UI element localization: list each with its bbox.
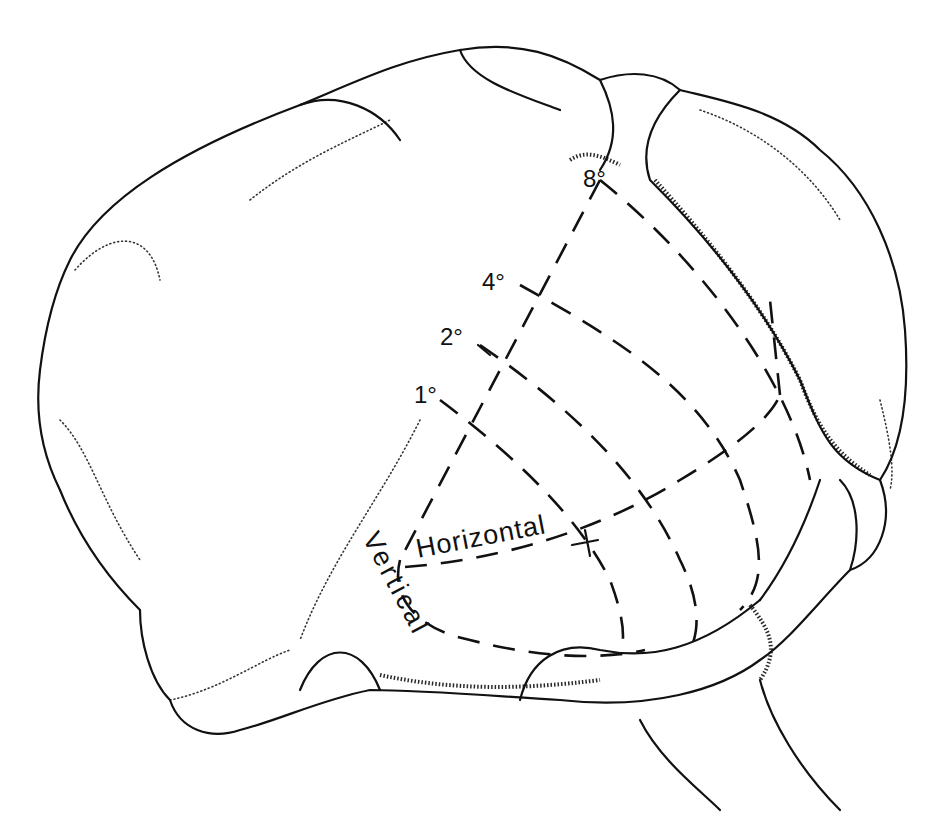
- arc-2deg: [480, 345, 697, 650]
- visual-field-map: [398, 180, 810, 656]
- outer-arc-8deg: [600, 180, 810, 480]
- brainstem: [640, 680, 840, 810]
- brain-visual-field-diagram: 8° 4° 2° 1° Horizontal Vertical: [0, 0, 952, 834]
- brain-outline: [38, 47, 906, 734]
- arc-4deg: [520, 285, 759, 610]
- label-8deg: 8°: [583, 165, 606, 192]
- eccentricity-labels: 8° 4° 2° 1°: [414, 165, 606, 408]
- label-4deg: 4°: [482, 268, 505, 295]
- vertical-meridian-upper: [400, 180, 600, 560]
- label-1deg: 1°: [414, 381, 437, 408]
- stipple-shading: [60, 110, 892, 700]
- label-2deg: 2°: [440, 323, 463, 350]
- vertical-meridian-lower: [398, 560, 645, 656]
